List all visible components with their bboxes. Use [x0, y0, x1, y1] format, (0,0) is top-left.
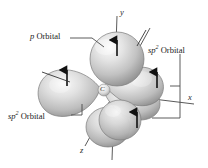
label-sp2-left-prefix: sp: [8, 111, 16, 121]
label-p-orbital: p Orbital: [30, 32, 60, 41]
label-p-orbital-text: Orbital: [34, 31, 60, 41]
label-sp2-orbital-left: sp2 Orbital: [8, 110, 45, 120]
p-orbital-bottom-shape: [99, 100, 141, 140]
sp2-orbital-left-shape: [38, 70, 100, 117]
label-sp2-right-prefix: sp: [148, 45, 156, 55]
axis-label-z: z: [80, 145, 83, 155]
orbital-diagram-canvas: [0, 0, 208, 168]
atom-label-carbon: C: [100, 85, 105, 93]
label-sp2-left-text: Orbital: [19, 111, 45, 121]
orbital-diagram: p Orbital sp2 Orbital sp2 Orbital y x z …: [0, 0, 208, 168]
axis-label-x: x: [188, 92, 192, 102]
label-sp2-orbital-right: sp2 Orbital: [148, 44, 185, 54]
axis-label-y: y: [120, 7, 124, 17]
label-sp2-right-text: Orbital: [159, 45, 185, 55]
